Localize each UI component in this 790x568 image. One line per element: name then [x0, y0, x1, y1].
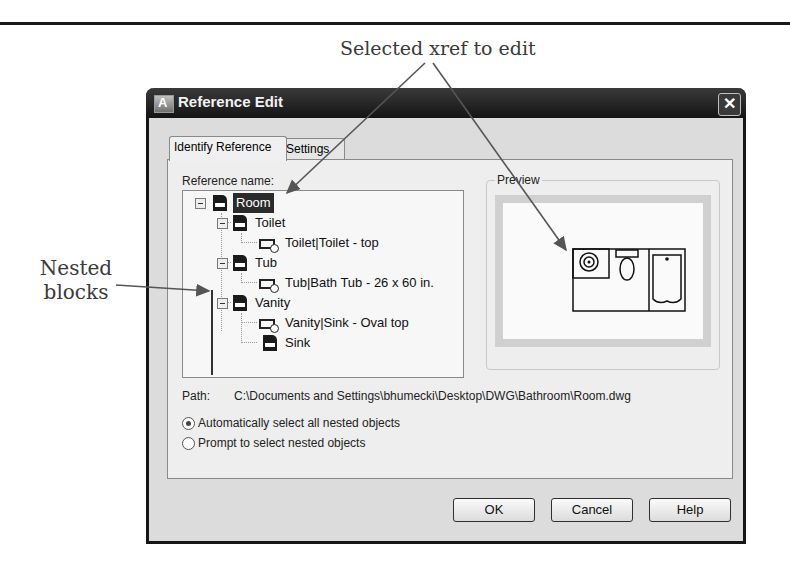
tab-identify-reference[interactable]: Identify Reference — [169, 136, 287, 161]
annotation-arrows — [0, 0, 790, 568]
